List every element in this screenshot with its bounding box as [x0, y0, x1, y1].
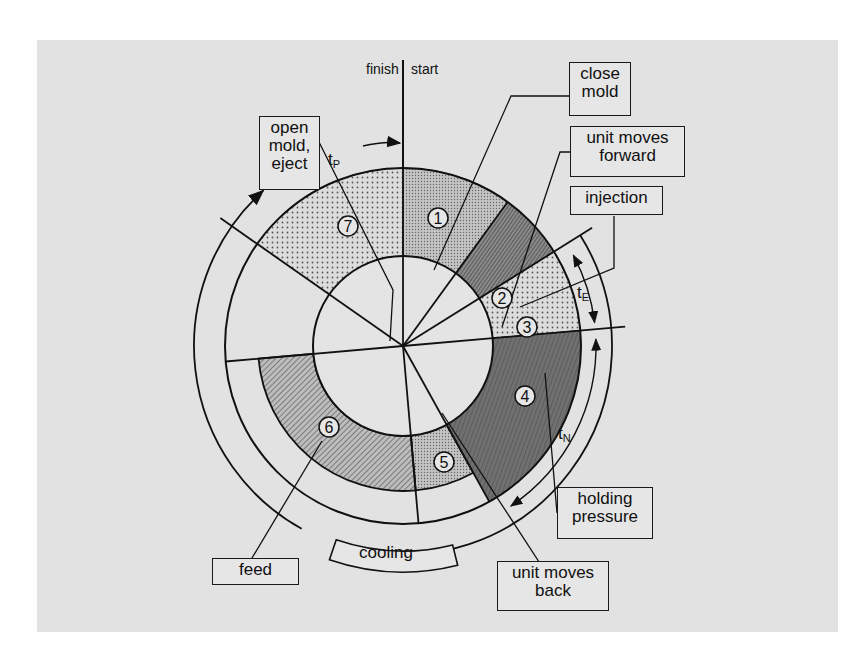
phase-badge-3: 3	[517, 317, 537, 337]
label-injection: injection	[570, 186, 663, 215]
badge-number: 4	[521, 388, 530, 405]
phase-badge-5: 5	[434, 452, 454, 472]
badge-number: 3	[523, 319, 532, 336]
badge-number: 6	[325, 419, 334, 436]
badge-number: 7	[344, 218, 353, 235]
label-close-mold: close mold	[569, 62, 631, 116]
injection-cycle-diagram: 1234567	[0, 0, 864, 659]
finish-marker-label: finish	[366, 61, 399, 77]
phase-badge-1: 1	[428, 208, 448, 228]
phase-badge-4: 4	[515, 386, 535, 406]
label-open-mold-eject: open mold, eject	[259, 116, 320, 190]
tP-arrow	[363, 142, 400, 146]
label-feed: feed	[212, 558, 299, 585]
label-unit-moves-back: unit moves back	[497, 561, 609, 611]
label-cooling: cooling	[359, 543, 413, 563]
phase-badge-6: 6	[319, 417, 339, 437]
badge-number: 2	[498, 290, 507, 307]
time-tN: tN	[558, 424, 571, 444]
time-tE: tE	[577, 283, 589, 303]
start-marker-label: start	[411, 61, 438, 77]
badge-number: 5	[440, 454, 449, 471]
label-unit-moves-forward: unit moves forward	[570, 126, 685, 177]
phase-badge-2: 2	[492, 288, 512, 308]
phase-badge-7: 7	[338, 216, 358, 236]
label-holding-pressure: holding pressure	[557, 487, 653, 539]
badge-number: 1	[434, 210, 443, 227]
time-tP: tP	[328, 150, 340, 170]
